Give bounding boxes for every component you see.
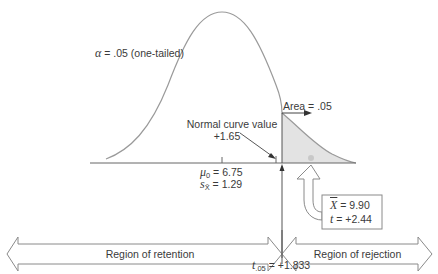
critical-value-label: t.05 = +1.833 [252,259,310,274]
alpha-label: α = .05 (one-tailed) [95,47,184,59]
sample-t-label: t = +2.44 [330,213,372,225]
rejection-region-label: Region of rejection [300,248,415,260]
area-label: Area = .05 [283,100,332,112]
rejection-area-shade [282,113,356,163]
hollow-bent-arrow [297,165,322,220]
critical-value-text: = +1.833 [266,259,310,271]
sample-mean-dot [308,155,314,161]
normal-curve-value-label: Normal curve value +1.65 [182,118,282,142]
normal-curve-value-line2: +1.65 [172,130,282,142]
normal-curve-value-line1: Normal curve value [182,118,282,130]
xbar-value: = 9.90 [337,199,369,211]
arrow-up-icon [280,164,285,171]
t-value: = +2.44 [333,213,372,225]
se-value: = 1.29 [210,178,242,190]
alpha-text: = .05 (one-tailed) [101,47,184,59]
standard-error-label: sX̄ = 1.29 [200,178,242,194]
sample-xbar-label: X = 9.90 [330,199,370,211]
mean-value: = 6.75 [210,166,242,178]
retention-region-label: Region of retention [60,248,240,260]
t-crit-subscript: .05 [255,264,265,273]
